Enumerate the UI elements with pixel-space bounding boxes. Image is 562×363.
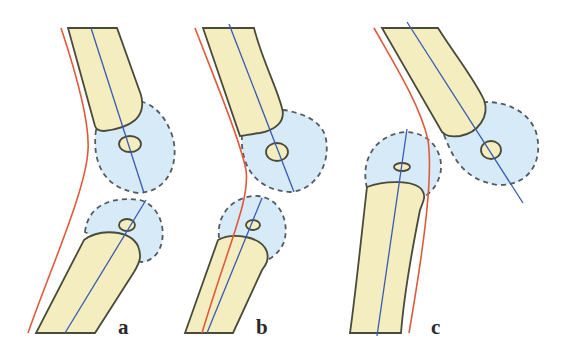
panel-a: a xyxy=(28,28,175,339)
panel-label-b: b xyxy=(256,315,268,339)
panel-c: c xyxy=(350,22,538,339)
knee-diagram: .bone { fill: #f3edc0; stroke: #4a4a3a; … xyxy=(0,0,562,363)
panel-label-a: a xyxy=(118,315,129,339)
panel-b: b xyxy=(185,24,327,339)
panel-label-c: c xyxy=(431,315,440,339)
femur-bone xyxy=(203,28,283,136)
femur-condyle-oval xyxy=(266,143,288,161)
femur-condyle-oval xyxy=(481,141,501,159)
femur-bone xyxy=(68,28,142,131)
